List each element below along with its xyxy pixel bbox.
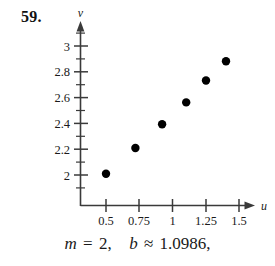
data-series — [102, 57, 230, 178]
data-point — [222, 57, 230, 65]
x-tick-labels: 0.5 0.75 1 1.25 1.5 — [98, 214, 247, 228]
caption-slope-variable: m — [65, 234, 77, 253]
x-axis-label: u — [261, 199, 267, 213]
caption-intercept-variable: b — [129, 234, 138, 253]
figure-page: 59. — [0, 0, 275, 266]
y-tick-label-5: 2 — [64, 169, 70, 183]
data-point — [158, 120, 166, 128]
y-tick-labels: 3 2.8 2.6 2.4 2.2 2 — [54, 40, 70, 183]
y-tick-label-4: 2.2 — [54, 143, 70, 157]
y-axis-label: v — [78, 6, 84, 20]
scatter-plot: 3 2.8 2.6 2.4 2.2 2 0.5 0.75 1 1.25 1.5 … — [0, 0, 275, 240]
y-axis-arrowhead — [77, 21, 85, 32]
x-tick-label-1: 0.75 — [128, 214, 150, 228]
data-point — [131, 144, 139, 152]
caption-intercept-value: 1.0986, — [159, 234, 210, 253]
data-point — [102, 170, 110, 178]
data-point — [202, 76, 210, 84]
y-tick-label-2: 2.6 — [54, 91, 70, 105]
caption-slope-value: 2, — [99, 234, 112, 253]
x-tick-label-4: 1.5 — [231, 214, 247, 228]
y-tick-label-3: 2.4 — [54, 117, 70, 131]
x-axis-arrowhead — [245, 202, 256, 210]
y-tick-label-1: 2.8 — [54, 65, 70, 79]
y-tick-label-0: 3 — [64, 40, 70, 54]
y-axis — [77, 21, 85, 206]
caption-approx-sign: ≈ — [142, 234, 155, 253]
x-tick-label-3: 1.25 — [195, 214, 217, 228]
x-tick-label-0: 0.5 — [98, 214, 114, 228]
data-point — [182, 98, 190, 106]
answer-caption: m = 2, b ≈ 1.0986, — [0, 234, 275, 254]
caption-equals-sign: = — [81, 234, 95, 253]
x-tick-label-2: 1 — [169, 214, 175, 228]
